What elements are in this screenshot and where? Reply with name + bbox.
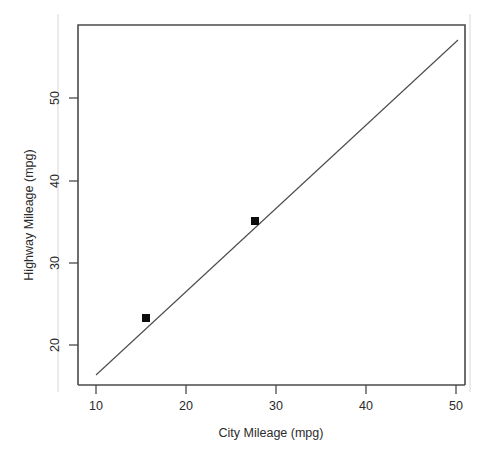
y-tick-label-50: 50 (48, 91, 62, 105)
y-axis-title: Highway Mileage (mpg) (22, 149, 36, 280)
x-tick-label-30: 30 (269, 399, 283, 413)
chart-figure: 10 20 30 40 50 20 30 40 50 City Mileage … (0, 0, 492, 459)
fitted-line (96, 40, 458, 375)
x-axis-title: City Mileage (mpg) (219, 426, 324, 440)
y-tick-label-30: 30 (48, 256, 62, 270)
data-point-1 (142, 314, 150, 322)
x-tick-label-40: 40 (359, 399, 373, 413)
x-tick-label-10: 10 (89, 399, 103, 413)
x-tick-label-50: 50 (449, 399, 463, 413)
y-tick-label-20: 20 (48, 338, 62, 352)
scatter-plot: 10 20 30 40 50 20 30 40 50 City Mileage … (0, 0, 492, 459)
plot-box-border (78, 25, 465, 385)
data-point-2 (251, 217, 259, 225)
x-tick-label-20: 20 (179, 399, 193, 413)
y-tick-label-40: 40 (48, 174, 62, 188)
